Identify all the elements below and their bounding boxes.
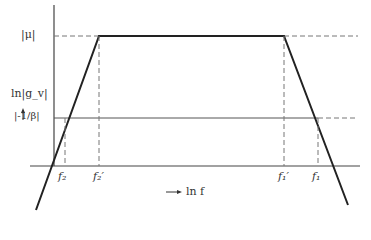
beta-level-label: |-1/β| xyxy=(14,110,40,121)
right-arrow-head-icon xyxy=(177,190,182,194)
f2p-label: f₂′ xyxy=(93,170,104,183)
mu-level-label: |μ| xyxy=(21,28,36,41)
x-axis-label: ln f xyxy=(186,185,204,198)
y-axis-label: ln|g_v| xyxy=(11,87,48,100)
f2-label: f₂ xyxy=(58,170,66,183)
gain-curve xyxy=(36,36,348,210)
f1-label: f₁ xyxy=(312,170,320,183)
f1p-label: f₁′ xyxy=(278,170,289,183)
